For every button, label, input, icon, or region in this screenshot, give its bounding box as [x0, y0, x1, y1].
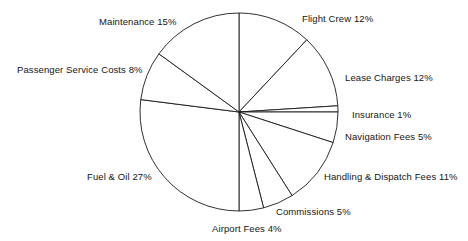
- pie-label-handling-dispatch-fees: Handling & Dispatch Fees 11%: [324, 171, 458, 182]
- pie-label-commissions: Commissions 5%: [276, 206, 351, 217]
- pie-label-navigation-fees: Navigation Fees 5%: [345, 131, 432, 142]
- pie-label-flight-crew: Flight Crew 12%: [302, 13, 373, 24]
- pie-label-maintenance: Maintenance 15%: [99, 16, 177, 27]
- pie-label-insurance: Insurance 1%: [352, 109, 411, 120]
- pie-label-airport-fees: Airport Fees 4%: [212, 223, 282, 234]
- pie-label-fuel-oil: Fuel & Oil 27%: [87, 171, 152, 182]
- pie-label-lease-charges: Lease Charges 12%: [345, 72, 433, 83]
- pie-chart-svg: [0, 0, 468, 241]
- pie-slice: [140, 100, 239, 211]
- pie-slices-group: [140, 13, 338, 211]
- pie-label-passenger-service-costs: Passenger Service Costs 8%: [17, 64, 143, 75]
- pie-chart-figure: Flight Crew 12% Lease Charges 12% Insura…: [0, 0, 468, 241]
